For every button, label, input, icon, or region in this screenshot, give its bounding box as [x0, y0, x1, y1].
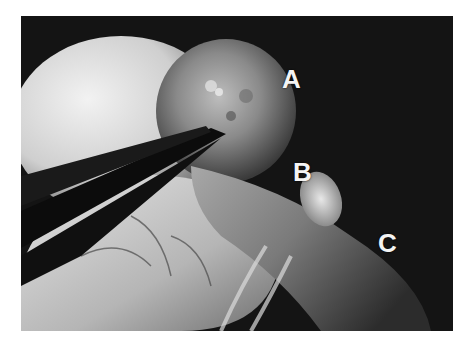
mass-a: [156, 39, 296, 183]
laparoscopic-photo: [21, 16, 453, 331]
label-a: A: [282, 66, 301, 92]
label-c: C: [378, 230, 397, 256]
label-b: B: [293, 159, 312, 185]
photo-illustration: [21, 16, 453, 331]
